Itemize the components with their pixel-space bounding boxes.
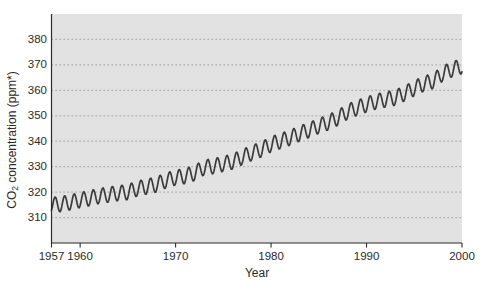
chart-plot-area	[0, 0, 490, 287]
plot-background	[52, 14, 463, 243]
y-tick-label-330: 330	[13, 160, 47, 173]
y-tick-label-340: 340	[13, 135, 47, 148]
x-tick-label-1960: 1960	[58, 250, 102, 263]
y-tick-label-350: 350	[13, 109, 47, 122]
y-tick-label-370: 370	[13, 58, 47, 71]
y-tick-label-380: 380	[13, 33, 47, 46]
x-tick-label-1990: 1990	[345, 250, 389, 263]
co2-chart: CO2 concentration (ppm*) Year 3103203303…	[0, 0, 490, 287]
x-tick-label-1980: 1980	[249, 250, 293, 263]
x-tick-label-1970: 1970	[154, 250, 198, 263]
y-tick-label-310: 310	[13, 211, 47, 224]
y-tick-label-360: 360	[13, 84, 47, 97]
x-tick-label-2000: 2000	[440, 250, 484, 263]
y-tick-label-320: 320	[13, 186, 47, 199]
x-axis-title: Year	[52, 266, 462, 280]
